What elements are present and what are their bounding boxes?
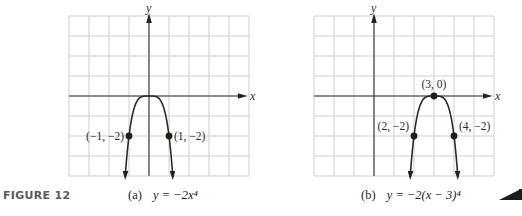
point-label: (3, 0) xyxy=(422,78,447,91)
x-axis-arrow-icon xyxy=(238,93,247,99)
data-point xyxy=(431,93,438,100)
point-label: (1, −2) xyxy=(174,130,206,143)
x-axis-label: x xyxy=(494,89,501,103)
plot-b: xy(3, 0)(2, −2)(4, −2) xyxy=(314,1,501,180)
caption-b-equation: y = −2(x − 3)⁴ xyxy=(385,188,462,202)
figure-label: FIGURE 12 xyxy=(3,189,70,202)
x-axis-label: x xyxy=(249,89,256,103)
x-axis-arrow-icon xyxy=(483,93,492,99)
corner-triangle xyxy=(499,190,519,200)
caption-a: (a) y = −2x⁴ xyxy=(128,188,198,202)
data-point xyxy=(126,133,133,140)
point-label: (4, −2) xyxy=(459,120,491,133)
data-point xyxy=(451,133,458,140)
caption-a-equation: y = −2x⁴ xyxy=(151,188,198,202)
data-point xyxy=(411,133,418,140)
page-corner-marker xyxy=(499,189,522,200)
figure-12: xy(−1, −2)(1, −2) xy(3, 0)(2, −2)(4, −2)… xyxy=(0,0,522,216)
plot-a: xy(−1, −2)(1, −2) xyxy=(69,1,256,180)
y-axis-label: y xyxy=(145,1,152,15)
data-point xyxy=(166,133,173,140)
point-label: (−1, −2) xyxy=(86,130,124,143)
caption-a-prefix: (a) xyxy=(128,188,142,202)
point-label: (2, −2) xyxy=(378,120,410,133)
y-axis-label: y xyxy=(370,1,377,15)
caption-b-prefix: (b) xyxy=(361,188,376,202)
caption-b: (b) y = −2(x − 3)⁴ xyxy=(361,188,461,202)
